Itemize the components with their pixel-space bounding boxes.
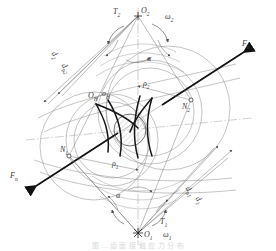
label-N2: N2: [182, 103, 190, 113]
figure-caption: 图 ... 齿 面 接 触 应 力 分 布: [0, 240, 276, 250]
label-T2: T2: [113, 8, 120, 18]
label-alpha-bottom: α: [116, 192, 120, 200]
diagram-canvas: [0, 0, 276, 251]
label-rho2: ρ2: [143, 80, 150, 90]
label-O2: O2: [141, 7, 150, 17]
label-T1: T1: [160, 218, 167, 228]
figure-container: T2 O2 ω2 α d2 db2 ρ2 N2 OH σH N1 ρ1 Fn F…: [0, 0, 276, 251]
force-vector-lower: [36, 133, 118, 186]
force-vector-upper: [162, 52, 244, 105]
label-Fn-bottom: Fn: [10, 172, 18, 182]
label-alpha-top: α: [147, 55, 151, 63]
label-omega2: ω2: [165, 13, 173, 23]
base-circle-2: [106, 46, 230, 170]
label-Fn-top: Fn: [242, 40, 250, 50]
label-rho1: ρ1: [112, 160, 119, 170]
label-N1: N1: [60, 146, 68, 156]
label-sigmaH-right: σH: [102, 90, 110, 100]
label-OH-left: OH: [88, 92, 98, 102]
